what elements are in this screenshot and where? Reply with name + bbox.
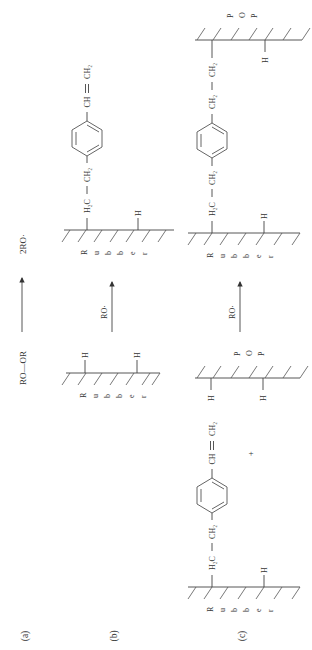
benzene-ring [72, 121, 102, 156]
rubber-letter: b [230, 254, 239, 258]
rubber-letter: e [254, 608, 263, 612]
rubber-product-b: H R u b b e r H₂C CH₂ CH CH₂ [62, 65, 174, 255]
radical-product: 2RO· [18, 234, 28, 254]
benzene-ring [197, 478, 227, 513]
vinyl-ch: CH [83, 96, 92, 107]
pop-letter: P [250, 13, 259, 18]
rubber-letter: e [127, 394, 136, 398]
ch2-group: CH₂ [208, 171, 217, 185]
rubber-letter: r [266, 609, 275, 612]
vinyl-ch2: CH₂ [83, 65, 92, 79]
panel-label-c: (c) [237, 631, 248, 642]
h-atom: H [259, 395, 268, 401]
rubber-letter: R [206, 252, 215, 258]
rubber-letter: R [80, 249, 89, 255]
h-atom: H [261, 57, 270, 63]
benzene-ring [197, 123, 227, 158]
rubber-letter: b [115, 394, 124, 398]
panel-label-b: (b) [109, 630, 120, 641]
rubber-letter: b [242, 254, 251, 258]
rubber-reactant-b: H H R u b b e r [62, 352, 160, 398]
h-atom: H [133, 352, 142, 358]
radical-reagent-c: RO· [228, 305, 237, 319]
rubber-letter: u [218, 608, 227, 612]
rubber-letter: b [104, 251, 113, 255]
rubber-letter: u [91, 394, 100, 398]
panel-c: H R u b b e r H₂C CH₂ CH CH₂ + [188, 12, 310, 612]
h2c-group: H₂C [208, 556, 217, 570]
h2c-group: H₂C [208, 202, 217, 216]
h-atom: H [260, 567, 269, 573]
panel-a: RO—OR 2RO· [18, 234, 28, 385]
pop-letter: O [245, 350, 254, 356]
ch2-group: CH₂ [208, 95, 217, 109]
radical-reagent-b: RO· [100, 305, 109, 319]
rubber-letter: u [92, 251, 101, 255]
pop-letter: P [233, 351, 242, 356]
grafted-rubber-reactant-c: H R u b b e r H₂C CH₂ CH CH₂ [188, 422, 300, 612]
rubber-letter: e [254, 254, 263, 258]
h-atom: H [207, 395, 216, 401]
h-atom: H [81, 352, 90, 358]
rubber-letter: b [230, 608, 239, 612]
crosslinked-product-c: H R u b b e r H₂C CH₂ CH₂ CH₂ H P O P [188, 12, 310, 258]
rubber-letter: e [128, 251, 137, 255]
pop-letter: P [257, 351, 266, 356]
panel-label-a: (a) [20, 631, 31, 642]
rubber-label: R [79, 392, 88, 398]
rubber-letter: r [266, 255, 275, 258]
vinyl-ch: CH [208, 453, 217, 464]
rubber-letter: b [103, 394, 112, 398]
rubber-letter: b [242, 608, 251, 612]
pop-reactant-c: H H P O P [195, 350, 308, 401]
rubber-letter: r [140, 252, 149, 255]
ch2-group: CH₂ [208, 525, 217, 539]
pop-letter: O [238, 12, 247, 18]
vinyl-ch2: CH₂ [208, 422, 217, 436]
h2c-group: H₂C [83, 199, 92, 213]
rubber-letter: b [116, 251, 125, 255]
reaction-scheme: (a) (b) (c) RO—OR 2RO· H H R u b b e r R… [0, 0, 312, 650]
peroxide-reactant: RO—OR [18, 351, 28, 385]
ch2-group: CH₂ [208, 63, 217, 77]
plus-sign: + [248, 448, 253, 458]
pop-letter: P [226, 13, 235, 18]
rubber-letter: r [139, 395, 148, 398]
rubber-letter: u [218, 254, 227, 258]
h-atom: H [134, 210, 143, 216]
panel-b: H H R u b b e r RO· H R u b b e r H₂C [62, 65, 174, 398]
h-atom: H [260, 213, 269, 219]
ch2-group: CH₂ [83, 168, 92, 182]
rubber-letter: R [206, 606, 215, 612]
